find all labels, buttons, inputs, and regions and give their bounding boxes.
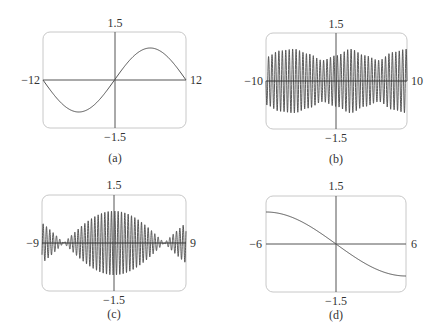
panel-a-ymax-label: 1.5 (108, 16, 123, 30)
panel-b-caption: (b) (329, 152, 343, 166)
panel-c-xmax-label: 9 (190, 236, 196, 250)
panel-d-caption: (d) (329, 308, 343, 322)
figure: 1.5 −1.5 −12 12 (a) 1.5 −1.5 −10 10 (b) … (0, 0, 436, 331)
panel-c: 1.5 −1.5 −9 9 (c) (26, 178, 196, 321)
panel-a-ymin-label: −1.5 (104, 130, 126, 144)
panel-a-xmin-label: −12 (21, 73, 40, 87)
panel-b-ymax-label: 1.5 (329, 17, 344, 31)
panel-b: 1.5 −1.5 −10 10 (b) (244, 17, 423, 166)
panel-c-xmin-label: −9 (26, 236, 39, 250)
panel-d-ymin-label: −1.5 (325, 294, 347, 308)
panel-a: 1.5 −1.5 −12 12 (a) (21, 16, 202, 165)
panel-b-ymin-label: −1.5 (325, 131, 347, 145)
panel-d: 1.5 −1.5 −6 6 (d) (249, 179, 417, 322)
panel-c-ymax-label: 1.5 (107, 178, 122, 192)
panel-c-caption: (c) (107, 307, 120, 321)
panel-d-xmax-label: 6 (411, 237, 417, 251)
panel-c-ymin-label: −1.5 (103, 293, 125, 307)
panel-d-ymax-label: 1.5 (329, 179, 344, 193)
panel-a-caption: (a) (108, 151, 121, 165)
panel-b-xmax-label: 10 (411, 74, 423, 88)
panel-a-xmax-label: 12 (190, 73, 202, 87)
panel-d-xmin-label: −6 (249, 237, 262, 251)
panel-b-xmin-label: −10 (244, 74, 263, 88)
